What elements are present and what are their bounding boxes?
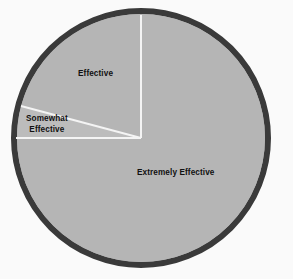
pie-chart: Effective Somewhat Effective Extremely E… [0, 0, 293, 279]
pie-chart-canvas [0, 0, 293, 279]
